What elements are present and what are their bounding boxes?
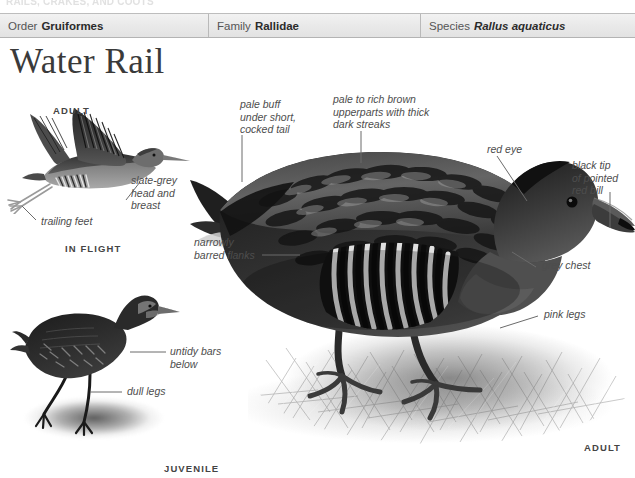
taxonomy-cell-species: Species Rallus aquaticus xyxy=(420,14,635,37)
taxonomy-bar: Order Gruiformes Family Rallidae Species… xyxy=(0,13,635,38)
juvenile-illustration xyxy=(10,288,185,448)
annotation-narrowly-barred-flanks: narrowly barred flanks xyxy=(194,236,255,261)
annotation-grey-chest: grey chest xyxy=(542,259,590,272)
taxonomy-cell-order: Order Gruiformes xyxy=(0,14,208,37)
annotation-red-eye: red eye xyxy=(487,143,522,156)
caption-adult: ADULT xyxy=(584,442,621,453)
annotation-dull-legs: dull legs xyxy=(127,385,166,398)
page-title: Water Rail xyxy=(10,44,165,79)
annotation-pale-buff-under-tail: pale buff under short, cocked tail xyxy=(240,98,296,136)
taxonomy-key-species: Species xyxy=(429,20,470,32)
caption-in-flight: IN FLIGHT xyxy=(65,243,121,254)
taxonomy-key-order: Order xyxy=(8,20,37,32)
taxonomy-value-species: Rallus aquaticus xyxy=(474,20,565,32)
caption-flight-adult: ADULT xyxy=(53,105,90,116)
taxonomy-key-family: Family xyxy=(217,20,251,32)
taxonomy-cell-family: Family Rallidae xyxy=(208,14,420,37)
annotation-pale-to-rich-brown-upperparts: pale to rich brown upperparts with thick… xyxy=(333,93,429,131)
annotation-trailing-feet: trailing feet xyxy=(41,215,92,228)
taxonomy-value-order: Gruiformes xyxy=(41,20,103,32)
taxonomy-value-family: Rallidae xyxy=(255,20,299,32)
annotation-black-tip-red-bill: black tip of pointed red bill xyxy=(572,159,618,197)
annotation-pink-legs: pink legs xyxy=(544,308,585,321)
adult-illustration xyxy=(190,140,635,460)
running-head: RAILS, CRAKES, AND COOTS xyxy=(6,0,154,7)
caption-juvenile: JUVENILE xyxy=(164,463,219,474)
annotation-slate-grey-head-and-breast: slate-grey head and breast xyxy=(131,174,177,212)
field-guide-page: RAILS, CRAKES, AND COOTS Order Gruiforme… xyxy=(0,0,635,478)
annotation-untidy-bars-below: untidy bars below xyxy=(170,345,221,370)
